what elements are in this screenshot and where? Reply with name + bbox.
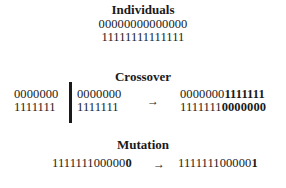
mutation-before-bold: 0 <box>125 156 131 170</box>
child-row-1: 11111110000000 <box>180 101 266 114</box>
child-0-bold: 1111111 <box>224 87 264 101</box>
mutation-title: Mutation <box>0 137 286 153</box>
mutation-after: 1111111000001 <box>178 157 258 170</box>
mutation-before: 1111111000000 <box>52 157 132 170</box>
child-1-plain: 1111111 <box>180 100 222 114</box>
individuals-title: Individuals <box>0 2 286 18</box>
child-1-bold: 0000000 <box>222 100 266 114</box>
mutation-arrow-icon: → <box>153 157 165 172</box>
parent-right-row-1: 1111111 <box>77 101 119 114</box>
individual-row-1: 11111111111111 <box>0 31 286 44</box>
child-0-plain: 0000000 <box>180 87 224 101</box>
mutation-before-plain: 111111100000 <box>52 156 125 170</box>
crossover-arrow-icon: → <box>147 94 159 109</box>
mutation-after-bold: 1 <box>251 156 257 170</box>
parent-left-row-1: 1111111 <box>14 101 56 114</box>
mutation-after-plain: 111111100000 <box>178 156 251 170</box>
crossover-point-divider <box>69 82 72 123</box>
crossover-title: Crossover <box>0 69 286 85</box>
